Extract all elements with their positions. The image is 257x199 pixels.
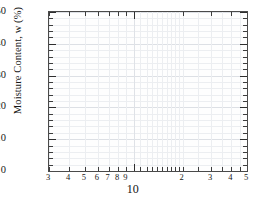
gridline-vertical (69, 12, 70, 171)
gridline-horizontal (49, 133, 247, 134)
gridline-horizontal (49, 114, 247, 115)
gridline-horizontal (49, 18, 247, 19)
y-tick (49, 88, 53, 89)
y-tick-right (243, 18, 247, 19)
x-tick-minor (162, 167, 163, 171)
x-tick-minor (152, 167, 153, 171)
y-tick-right (243, 120, 247, 121)
gridline-vertical-minor (152, 12, 153, 171)
y-tick (49, 31, 53, 32)
y-tick (49, 57, 53, 58)
x-tick-minor (167, 167, 168, 171)
y-tick-right (243, 133, 247, 134)
y-tick (49, 69, 53, 70)
x-tick-label: 3 (200, 173, 220, 182)
y-tick-label: 30 (0, 70, 6, 81)
y-tick-right (243, 63, 247, 64)
gridline-vertical-minor (157, 12, 158, 171)
gridline-vertical-minor (162, 12, 163, 171)
y-tick (49, 95, 53, 96)
gridline-horizontal (49, 171, 247, 172)
y-tick-right (243, 57, 247, 58)
y-tick-right (243, 101, 247, 102)
x-tick-top (231, 12, 232, 16)
y-tick (49, 152, 53, 153)
gridline-vertical-minor (222, 12, 223, 171)
gridline-vertical (49, 12, 50, 171)
x-tick-minor (222, 167, 223, 171)
gridline-horizontal (49, 107, 247, 108)
x-tick-top (49, 12, 50, 16)
gridline-vertical-minor (240, 12, 241, 171)
y-tick-right (240, 76, 247, 77)
gridline-vertical (98, 12, 99, 171)
y-tick-label: 40 (0, 38, 6, 49)
gridline-horizontal (49, 44, 247, 45)
gridline-vertical-minor (179, 12, 180, 171)
x-tick-minor (175, 167, 176, 171)
x-tick-minor (240, 167, 241, 171)
y-tick-right (243, 95, 247, 96)
gridline-horizontal (49, 37, 247, 38)
x-axis-decade-label: 10 (113, 183, 153, 195)
x-tick-minor (140, 167, 141, 171)
gridline-vertical-minor (171, 12, 172, 171)
x-tick-top (85, 12, 86, 16)
y-tick (49, 139, 56, 140)
y-axis-title: Moisture Content, w (%) (12, 0, 23, 141)
y-tick (49, 133, 53, 134)
gridline-horizontal (49, 25, 247, 26)
x-tick (126, 167, 127, 171)
gridline-horizontal (49, 152, 247, 153)
y-tick (49, 101, 53, 102)
y-tick (49, 12, 56, 13)
gridline-vertical-minor (147, 12, 148, 171)
gridline-horizontal (49, 12, 247, 13)
chart-figure: Moisture Content, w (%) 01020304050 3456… (0, 0, 257, 199)
gridline-vertical (134, 12, 135, 171)
y-tick-label: 0 (0, 165, 6, 176)
gridline-vertical-minor (140, 12, 141, 171)
y-tick (49, 25, 53, 26)
y-tick-label: 10 (0, 133, 6, 144)
x-tick-top (118, 12, 119, 16)
y-tick (49, 126, 53, 127)
y-tick-label: 20 (0, 101, 6, 112)
gridline-horizontal (49, 69, 247, 70)
x-tick (85, 167, 86, 171)
x-tick-label: 2 (172, 173, 192, 182)
y-tick-right (243, 88, 247, 89)
gridline-horizontal (49, 95, 247, 96)
y-tick (49, 63, 53, 64)
y-tick (49, 114, 53, 115)
x-tick (134, 164, 135, 171)
gridline-horizontal (49, 126, 247, 127)
y-tick-right (243, 69, 247, 70)
x-tick-top (134, 12, 135, 19)
x-tick-label: 9 (115, 173, 135, 182)
y-tick (49, 146, 53, 147)
y-tick (49, 165, 53, 166)
gridline-horizontal (49, 146, 247, 147)
x-tick-top (183, 12, 184, 16)
x-tick-top (247, 12, 248, 16)
x-tick (247, 167, 248, 171)
y-tick (49, 18, 53, 19)
x-tick-top (69, 12, 70, 16)
x-tick (49, 167, 50, 171)
y-tick (49, 50, 53, 51)
y-tick-right (243, 82, 247, 83)
y-tick-right (243, 31, 247, 32)
grid-layer (49, 12, 247, 171)
y-tick (49, 158, 53, 159)
x-tick-minor (179, 167, 180, 171)
x-tick (231, 167, 232, 171)
gridline-vertical (126, 12, 127, 171)
gridline-horizontal (49, 31, 247, 32)
y-tick (49, 44, 56, 45)
x-tick (211, 167, 212, 171)
y-tick (49, 107, 56, 108)
y-tick-right (243, 152, 247, 153)
y-tick-right (243, 146, 247, 147)
y-tick-right (243, 114, 247, 115)
